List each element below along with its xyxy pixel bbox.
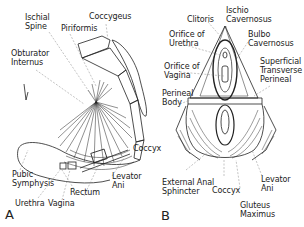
label-coccyx-b: Coccyx: [212, 186, 240, 195]
label-piriformis: Piriformis: [61, 24, 97, 33]
label-pubic-symphysis: Pubic Symphysis: [12, 170, 54, 188]
label-bulbo-cavernosus: Bulbo Cavernosus: [248, 30, 294, 48]
label-vagina: Vagina: [48, 199, 74, 208]
label-orifice-of-urethra: Orifice of Urethra: [169, 30, 204, 48]
label-levator-ani-b: Levator Ani: [261, 175, 291, 193]
label-coccygeus: Coccygeus: [89, 12, 131, 21]
label-urethra: Urethra: [15, 199, 45, 208]
label-gluteus-maximus: Gluteus Maximus: [240, 201, 275, 219]
label-rectum: Rectum: [70, 188, 100, 197]
label-superficial-transverse-perineal: Superficial Transverse Perineal: [260, 57, 302, 84]
label-clitoris: Clitoris: [187, 15, 214, 24]
label-levator-ani-a: Levator Ani: [112, 172, 142, 190]
label-coccyx-a: Coccyx: [133, 144, 161, 153]
pelvic-floor-anatomy-figure: Ischial Spine Piriformis Coccygeus Obtur…: [0, 0, 304, 227]
panel-letter-a: A: [5, 208, 14, 222]
label-perineal-body: Perineal Body: [162, 89, 193, 107]
label-external-anal-sphincter: External Anal Sphincter: [162, 178, 214, 196]
label-orifice-of-vagina: Orifice of Vagina: [164, 62, 199, 80]
label-ischio-cavernosus: Ischio Cavernosus: [226, 6, 272, 24]
label-ischial-spine: Ischial Spine: [25, 13, 50, 31]
panel-letter-b: B: [161, 209, 170, 223]
label-obturator-internus: Obturator Internus: [11, 49, 49, 67]
